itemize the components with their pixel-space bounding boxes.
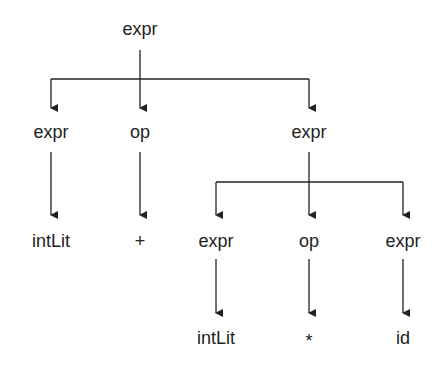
node-expr-b: expr bbox=[385, 232, 420, 250]
tree-edges bbox=[0, 0, 443, 366]
node-id: id bbox=[396, 329, 410, 347]
node-op: op bbox=[130, 123, 150, 141]
node-intlit: intLit bbox=[32, 232, 70, 250]
node-star: * bbox=[305, 332, 312, 350]
node-plus: + bbox=[135, 232, 146, 250]
node-op-inner: op bbox=[299, 232, 319, 250]
node-intlit-inner: intLit bbox=[197, 329, 235, 347]
node-expr-a: expr bbox=[198, 232, 233, 250]
node-expr-left: expr bbox=[33, 123, 68, 141]
node-root-expr: expr bbox=[122, 20, 157, 38]
node-expr-right: expr bbox=[291, 123, 326, 141]
